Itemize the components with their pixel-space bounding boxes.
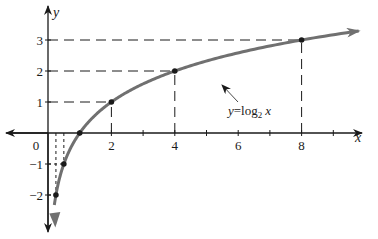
data-point [299, 37, 305, 43]
x-tick-label: 4 [172, 138, 179, 153]
log-curve [54, 31, 358, 205]
data-point [61, 161, 67, 167]
annotation-pointer [222, 85, 238, 102]
tick-labels: 02468321−1−2 [29, 33, 305, 203]
axis-ticks [45, 40, 333, 195]
y-tick-label: 1 [37, 95, 44, 110]
data-point [109, 99, 115, 105]
data-point [53, 192, 59, 198]
y-axis-label: y [51, 5, 60, 20]
x-tick-label: 8 [298, 138, 305, 153]
y-tick-label: −2 [29, 188, 43, 203]
x-axis-label: x [354, 130, 362, 145]
log-chart: 02468321−1−2 x y y=log2x [0, 0, 378, 239]
y-tick-label: 2 [37, 64, 44, 79]
data-point [77, 130, 83, 136]
function-annotation: y=log2x [226, 103, 271, 120]
curve-arrow-bottom [49, 212, 60, 228]
y-tick-label: −1 [29, 157, 43, 172]
x-tick-label: 0 [33, 138, 40, 153]
x-tick-label: 2 [108, 138, 115, 153]
y-tick-label: 3 [37, 33, 44, 48]
x-tick-label: 6 [235, 138, 242, 153]
guide-dashes [48, 40, 302, 195]
data-point [172, 68, 178, 74]
